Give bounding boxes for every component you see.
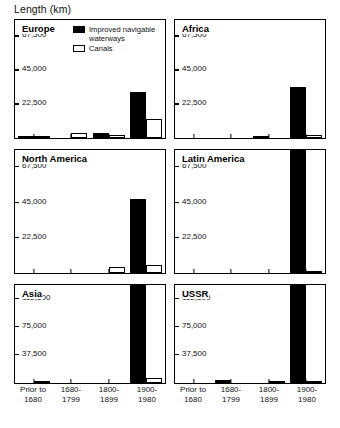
legend-swatch-improved [73, 26, 85, 34]
y-tick-mark [15, 202, 19, 203]
x-tick-mark [193, 379, 194, 383]
bar-improved-waterways [130, 199, 146, 273]
x-tick-mark [268, 379, 269, 383]
panel-title: North America [21, 153, 88, 164]
y-tick-label: 22,500 [22, 232, 46, 241]
category-cell [128, 150, 166, 273]
plot-area: Europe22,50045,00067,500Improved navigab… [14, 19, 166, 139]
category-cell [250, 150, 288, 273]
legend-swatch-canals [73, 45, 85, 53]
bar-pair [250, 150, 288, 273]
x-tick-mark [146, 379, 147, 383]
x-tick-mark [146, 134, 147, 138]
bar-improved-waterways [130, 92, 146, 138]
x-tick-mark [33, 269, 34, 273]
bar-pair [90, 285, 128, 383]
panel-north-america: North America22,50045,00067,500 [14, 149, 166, 274]
y-tick-mark [175, 202, 179, 203]
bar-canals [269, 381, 285, 383]
panel-latin-america: Latin America22,50045,00067,500 [174, 149, 326, 274]
legend-label: Canals [89, 44, 113, 53]
x-tick-mark [306, 269, 307, 273]
y-tick-label: 37,500 [182, 349, 206, 358]
bar-pair [128, 285, 166, 383]
y-tick-mark [175, 103, 179, 104]
x-tick-mark [306, 379, 307, 383]
y-tick-mark [175, 237, 179, 238]
x-tick-mark [33, 134, 34, 138]
plot-area: Asia37,50075,000112,500 [14, 284, 166, 384]
legend: Improved navigable waterwaysCanals [73, 25, 155, 54]
x-tick-mark [268, 134, 269, 138]
panel-europe: Europe22,50045,00067,500Improved navigab… [14, 19, 166, 139]
y-tick-label: 22,500 [182, 98, 206, 107]
plot-area: Africa22,50045,00067,500 [174, 19, 326, 139]
bar-canals [146, 119, 162, 138]
x-tick-mark [231, 379, 232, 383]
y-tick-mark [15, 326, 19, 327]
y-tick-label: 45,000 [22, 64, 46, 73]
category-cell [250, 20, 288, 138]
x-axis: Prior to 16801680- 17991800- 18991900- 1… [14, 384, 166, 406]
panel-africa: Africa22,50045,00067,500 [174, 19, 326, 139]
bar-canals [146, 378, 162, 383]
category-cell [213, 150, 251, 273]
y-tick-mark [15, 166, 19, 167]
bar-pair [213, 20, 251, 138]
bar-canals [109, 267, 125, 273]
bar-improved-waterways [93, 133, 109, 138]
y-tick-mark [15, 69, 19, 70]
y-tick-label: 75,000 [182, 321, 206, 330]
bar-pair [53, 285, 91, 383]
y-tick-label: 45,000 [182, 197, 206, 206]
y-tick-mark [175, 298, 179, 299]
x-tick-mark [231, 269, 232, 273]
plot-area: USSR37,50075,000112,500 [174, 284, 326, 384]
y-tick-mark [175, 326, 179, 327]
chart-root: Length (km) Europe22,50045,00067,500Impr… [0, 0, 340, 428]
y-tick-label: 45,000 [22, 197, 46, 206]
bar-improved-waterways [130, 284, 146, 383]
bar-pair [288, 285, 326, 383]
x-tick-mark [108, 379, 109, 383]
y-tick-mark [15, 35, 19, 36]
panel-title: Latin America [181, 153, 245, 164]
x-axis-label: 1680- 1799 [52, 384, 90, 406]
x-tick-mark [71, 134, 72, 138]
bar-pair [288, 20, 326, 138]
x-axis-label: 1900- 1980 [288, 384, 326, 406]
category-cell [213, 285, 251, 383]
y-tick-mark [175, 166, 179, 167]
y-tick-label: 37,500 [22, 349, 46, 358]
bar-canals [306, 381, 322, 383]
y-tick-label: 45,000 [182, 64, 206, 73]
y-tick-label: 75,000 [22, 321, 46, 330]
plot-area: North America22,50045,00067,500 [14, 149, 166, 274]
bar-pair [250, 285, 288, 383]
x-tick-mark [71, 379, 72, 383]
bar-pair [90, 150, 128, 273]
x-tick-mark [193, 269, 194, 273]
bar-improved-waterways [18, 136, 34, 138]
x-tick-mark [71, 269, 72, 273]
chart-title: Length (km) [14, 3, 71, 15]
bar-pair [250, 20, 288, 138]
category-cell [128, 285, 166, 383]
plot-area: Latin America22,50045,00067,500 [174, 149, 326, 274]
x-tick-mark [268, 269, 269, 273]
category-cell [53, 285, 91, 383]
y-tick-mark [175, 69, 179, 70]
bar-canals [146, 265, 162, 273]
x-tick-mark [33, 379, 34, 383]
y-tick-label: 22,500 [22, 98, 46, 107]
panel-title: Asia [21, 288, 43, 299]
x-tick-mark [193, 134, 194, 138]
x-axis-label: Prior to 1680 [174, 384, 212, 406]
bar-canals [71, 133, 87, 138]
y-tick-mark [15, 354, 19, 355]
bar-pair [213, 150, 251, 273]
category-cell [213, 20, 251, 138]
panel-ussr: USSR37,50075,000112,500Prior to 16801680… [174, 284, 326, 406]
bar-improved-waterways [290, 284, 306, 383]
category-cell [53, 150, 91, 273]
